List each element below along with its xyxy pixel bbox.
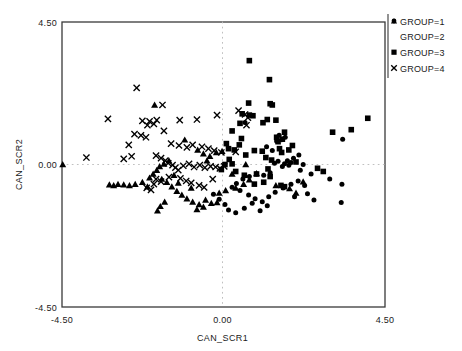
data-point-square [250,113,256,119]
data-point-circle [260,199,265,204]
data-point-circle [246,192,251,197]
data-point-circle [298,168,303,173]
data-point-square [267,174,273,180]
data-point-square [242,172,248,178]
data-point-square [237,121,243,127]
data-point-square [226,146,232,152]
data-point-circle [305,191,310,196]
data-point-circle [327,177,332,182]
data-point-circle [296,178,301,183]
data-point-circle [211,192,216,197]
data-point-square [233,169,239,175]
data-point-square [263,155,269,161]
data-point-square [246,100,252,106]
data-point-square [282,184,288,190]
data-point-square [348,127,354,133]
legend-label-group-3: GROUP=3 [400,48,445,58]
data-point-square [236,142,242,148]
data-point-circle [226,208,231,213]
data-point-square [267,77,273,83]
y-tick-label-mid: 0.00 [38,160,57,170]
data-point-square [265,166,271,172]
data-point-circle [280,164,285,169]
data-point-circle [301,162,306,167]
legend-item-group-1[interactable]: GROUP=1 [392,17,445,27]
y-axis-title: CAN_SCR2 [14,139,24,190]
data-point-square [365,115,371,121]
data-point-square [330,129,336,135]
data-point-circle [270,148,275,153]
data-point-square [286,147,292,153]
data-point-square [252,148,258,154]
data-point-circle [340,137,345,142]
legend-item-group-4[interactable]: GROUP=4 [391,64,444,74]
y-tick-label-max: 4.50 [38,18,57,28]
data-point-square [239,136,245,142]
data-point-square [229,161,235,167]
data-point-circle [266,194,271,199]
square-marker-icon [391,50,396,55]
data-point-circle [233,210,238,215]
legend-label-group-4: GROUP=4 [400,64,445,74]
data-point-circle [339,200,344,205]
data-point-square [275,139,281,145]
data-point-circle [286,163,291,168]
data-point-square [243,152,249,158]
data-point-circle [273,190,278,195]
data-point-circle [222,202,227,207]
data-point-square [279,150,285,156]
data-point-circle [261,173,266,178]
data-point-square [252,181,258,187]
data-point-square [229,128,235,134]
data-point-square [261,179,267,185]
data-point-circle [339,182,344,187]
data-point-circle [311,197,316,202]
data-point-circle [309,172,314,177]
x-tick-label-mid: 0.00 [213,315,232,325]
data-point-square [247,58,253,64]
data-point-square [293,159,299,165]
data-point-square [270,102,276,108]
scatter-plot-figure: 4.50 0.00 -4.50 -4.50 0.00 4.50 CAN_SCR1… [0,0,462,351]
data-point-square [259,148,265,154]
data-point-square [315,166,321,172]
data-point-circle [234,181,239,186]
data-point-circle [253,196,258,201]
legend-label-group-2: GROUP=2 [400,32,445,42]
data-point-circle [265,203,270,208]
data-point-square [260,120,266,126]
data-point-square [269,157,275,163]
legend-item-group-3[interactable]: GROUP=3 [391,48,444,58]
data-point-square [254,171,260,177]
data-point-circle [296,153,301,158]
x-tick-label-min: -4.50 [51,315,73,325]
y-tick-label-min: -4.50 [35,303,57,313]
data-point-circle [242,206,247,211]
data-point-circle [250,201,255,206]
data-point-square [224,141,230,147]
data-point-square [282,129,288,135]
x-axis-title: CAN_SCR1 [197,333,248,343]
data-point-square [320,169,326,175]
legend-label-group-1: GROUP=1 [400,17,445,27]
data-point-circle [258,208,263,213]
x-tick-label-max: 4.50 [376,315,395,325]
data-point-square [273,117,279,123]
